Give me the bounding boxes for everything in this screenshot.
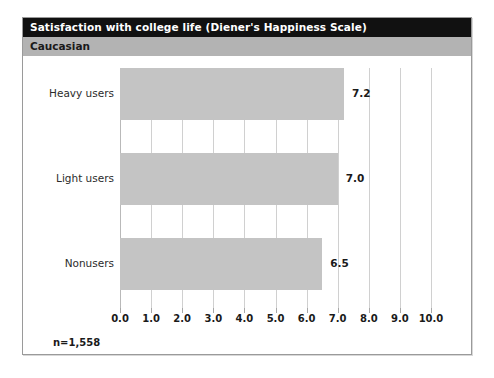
category-label: Light users [4, 172, 114, 184]
gridline-10.0 [431, 68, 432, 308]
bar-value-label: 6.5 [330, 257, 349, 269]
plot-area: 0.01.02.03.04.05.06.07.08.09.010.0 7.27.… [23, 56, 471, 354]
category-label: Nonusers [4, 257, 114, 269]
chart-title: Satisfaction with college life (Diener's… [30, 21, 367, 33]
bar-value-label: 7.2 [352, 87, 371, 99]
bar [120, 153, 338, 205]
category-label: Heavy users [4, 87, 114, 99]
chart-panel: Satisfaction with college life (Diener's… [22, 17, 472, 355]
chart-subtitle-bar: Caucasian [23, 37, 471, 56]
bar [120, 68, 344, 120]
gridline-9.0 [400, 68, 401, 308]
bar-value-label: 7.0 [346, 172, 365, 184]
chart-title-bar: Satisfaction with college life (Diener's… [23, 18, 471, 37]
x-tick-label: 10.0 [411, 313, 451, 324]
bar [120, 238, 322, 290]
sample-size-annotation: n=1,558 [53, 337, 100, 348]
chart-subtitle: Caucasian [30, 40, 90, 52]
gridline-8.0 [369, 68, 370, 308]
